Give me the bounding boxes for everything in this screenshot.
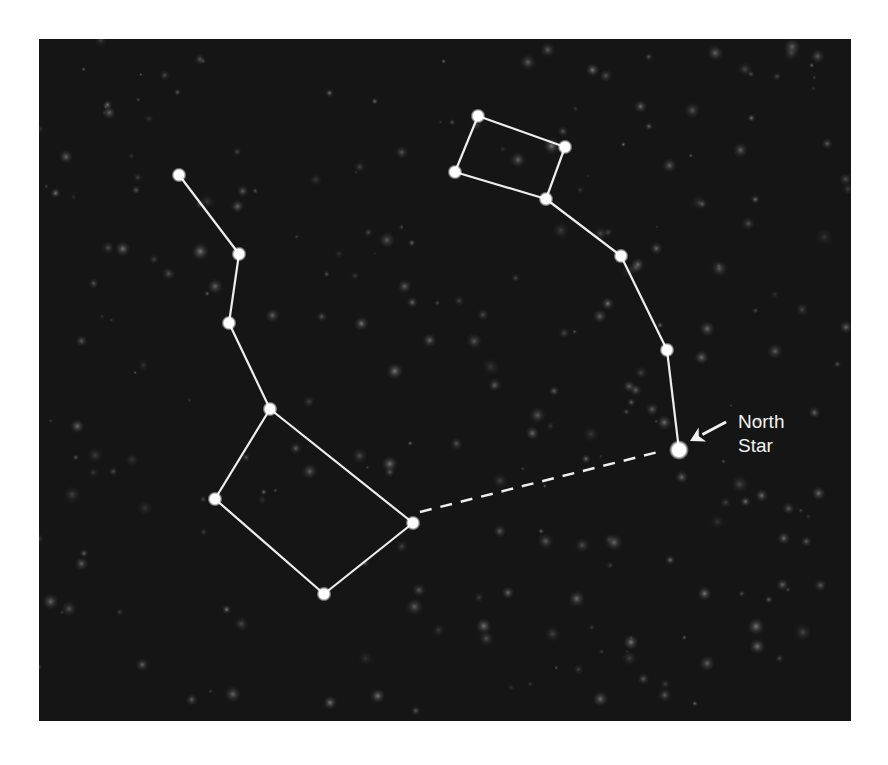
little-dipper-line bbox=[621, 256, 667, 350]
little-dipper-line bbox=[667, 350, 679, 450]
little-dipper-line bbox=[546, 147, 565, 199]
label-line-1: North bbox=[738, 410, 784, 434]
little-dipper-star bbox=[471, 109, 486, 124]
big-dipper-star bbox=[406, 516, 421, 531]
big-dipper-star bbox=[263, 402, 278, 417]
big-dipper-star bbox=[232, 247, 247, 262]
little-dipper-star bbox=[448, 165, 463, 180]
background-stars bbox=[34, 34, 854, 716]
big-dipper-line bbox=[215, 499, 324, 594]
big-dipper-line bbox=[215, 409, 270, 499]
little-dipper-star bbox=[614, 249, 629, 264]
big-dipper-star bbox=[208, 492, 223, 507]
arrow-icon bbox=[690, 422, 726, 442]
little-dipper-star bbox=[558, 140, 573, 155]
north-star-label: North Star bbox=[738, 410, 784, 458]
label-line-2: Star bbox=[738, 434, 784, 458]
little-dipper-line bbox=[478, 116, 565, 147]
big-dipper-line bbox=[229, 254, 239, 323]
little-dipper-line bbox=[455, 172, 546, 199]
big-dipper-line bbox=[179, 175, 239, 254]
big-dipper-star bbox=[317, 587, 332, 602]
big-dipper-line bbox=[324, 523, 413, 594]
little-dipper-star bbox=[539, 192, 554, 207]
pointer-dashed-line bbox=[420, 451, 662, 512]
big-dipper-star bbox=[172, 168, 187, 183]
star-chart bbox=[0, 0, 888, 765]
north-star bbox=[669, 440, 689, 460]
little-dipper-star bbox=[660, 343, 675, 358]
big-dipper-star bbox=[222, 316, 237, 331]
little-dipper-line bbox=[455, 116, 478, 172]
big-dipper-line bbox=[229, 323, 270, 409]
